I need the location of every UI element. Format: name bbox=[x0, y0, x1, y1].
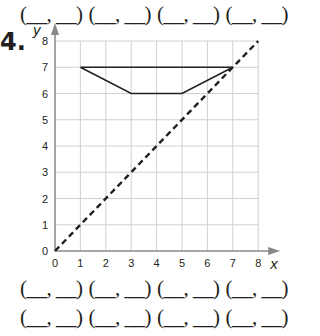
y-tick-label: 0 bbox=[42, 245, 48, 257]
y-tick-label: 6 bbox=[42, 88, 48, 100]
x-tick-label: 2 bbox=[103, 257, 109, 269]
x-axis-label: x bbox=[269, 255, 278, 272]
answer-blank-pair[interactable]: (__, __) bbox=[157, 276, 220, 301]
y-tick-label: 4 bbox=[42, 140, 48, 152]
y-axis-label: y bbox=[32, 21, 42, 38]
x-axis-arrow-icon bbox=[268, 247, 280, 255]
y-tick-label: 5 bbox=[42, 114, 48, 126]
answer-blank-pair[interactable]: (__, __) bbox=[226, 305, 289, 330]
y-tick-label: 1 bbox=[42, 219, 48, 231]
answer-blank-pair[interactable]: (__, __) bbox=[89, 305, 152, 330]
y-tick-label: 2 bbox=[42, 193, 48, 205]
answer-blank-pair[interactable]: (__, __) bbox=[89, 276, 152, 301]
x-tick-label: 3 bbox=[128, 257, 134, 269]
answer-blank-pair[interactable]: (__, __) bbox=[20, 276, 83, 301]
x-tick-label: 6 bbox=[204, 257, 210, 269]
x-tick-label: 8 bbox=[255, 257, 261, 269]
answer-blank-pair[interactable]: (__, __) bbox=[157, 305, 220, 330]
x-tick-label: 7 bbox=[230, 257, 236, 269]
answer-blank-pair[interactable]: (__, __) bbox=[226, 276, 289, 301]
y-axis-arrow-icon bbox=[51, 23, 59, 35]
x-tick-label: 0 bbox=[52, 257, 58, 269]
bottom-answer-row-1: (__, __) (__, __) (__, __) (__, __) bbox=[20, 276, 288, 301]
y-tick-label: 7 bbox=[42, 61, 48, 73]
bottom-answer-row-2: (__, __) (__, __) (__, __) (__, __) bbox=[20, 305, 288, 330]
x-tick-label: 5 bbox=[179, 257, 185, 269]
x-tick-label: 4 bbox=[154, 257, 160, 269]
x-tick-label: 1 bbox=[77, 257, 83, 269]
answer-blank-pair[interactable]: (__, __) bbox=[20, 305, 83, 330]
y-tick-label: 8 bbox=[42, 35, 48, 47]
y-tick-label: 3 bbox=[42, 166, 48, 178]
